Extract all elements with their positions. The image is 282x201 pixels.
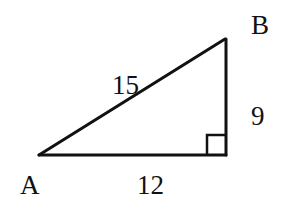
side-label-leg: 9	[251, 101, 265, 131]
right-triangle-diagram: A B 15 12 9	[0, 0, 282, 201]
vertex-label-a: A	[20, 170, 40, 200]
right-angle-marker	[207, 135, 226, 155]
vertex-label-b: B	[251, 10, 269, 40]
side-label-base: 12	[137, 170, 164, 200]
side-label-hypotenuse: 15	[112, 70, 139, 100]
